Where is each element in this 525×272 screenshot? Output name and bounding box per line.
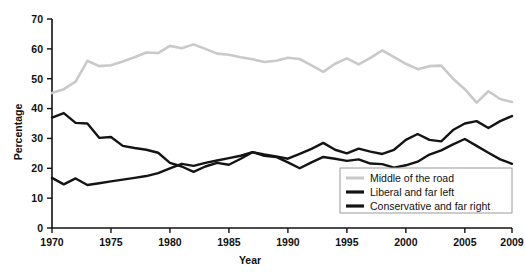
y-tick-label-70: 70 <box>31 13 43 25</box>
chart-canvas: 010203040506070 197019751980198519901995… <box>0 0 525 272</box>
y-tick-label-40: 40 <box>31 102 43 114</box>
y-tick-label-0: 0 <box>37 222 43 234</box>
y-tick-label-20: 20 <box>31 162 43 174</box>
series-line-1 <box>52 113 512 172</box>
series-line-0 <box>52 44 512 102</box>
x-tick-label-1975: 1975 <box>99 236 123 248</box>
x-tick-label-1985: 1985 <box>217 236 241 248</box>
y-tick-label-30: 30 <box>31 132 43 144</box>
y-tick-label-50: 50 <box>31 73 43 85</box>
legend-label-0: Middle of the road <box>370 172 454 184</box>
series-lines <box>52 44 512 185</box>
legend-label-1: Liberal and far left <box>370 186 454 198</box>
x-tick-label-1995: 1995 <box>335 236 359 248</box>
chart-legend: Middle of the roadLiberal and far leftCo… <box>340 168 512 213</box>
x-tick-label-2005: 2005 <box>453 236 477 248</box>
x-tick-label-1980: 1980 <box>158 236 182 248</box>
y-tick-label-10: 10 <box>31 192 43 204</box>
line-chart: 010203040506070 197019751980198519901995… <box>0 0 525 272</box>
y-axis-title: Percentage <box>12 104 24 161</box>
x-tick-label-2009: 2009 <box>500 236 524 248</box>
y-axis-tick-labels: 010203040506070 <box>31 13 43 234</box>
legend-label-2: Conservative and far right <box>370 200 490 212</box>
x-axis-title: Year <box>239 254 261 266</box>
y-tick-label-60: 60 <box>31 43 43 55</box>
x-tick-label-1970: 1970 <box>40 236 64 248</box>
x-axis-tick-labels: 197019751980198519901995200020052009 <box>40 236 524 248</box>
x-tick-label-2000: 2000 <box>394 236 418 248</box>
x-tick-label-1990: 1990 <box>276 236 300 248</box>
